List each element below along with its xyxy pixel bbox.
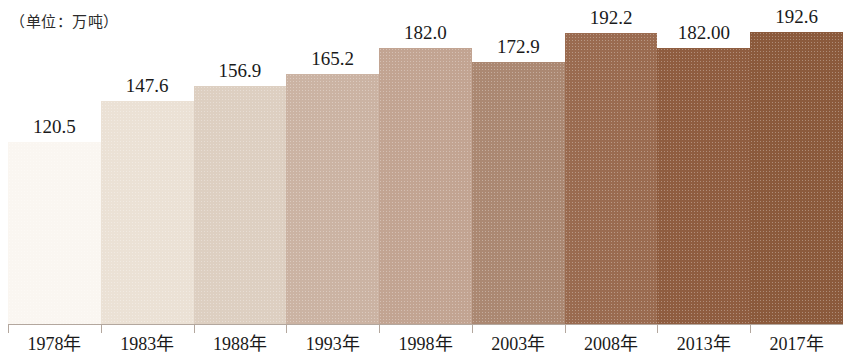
- bar[interactable]: [194, 86, 287, 324]
- bar-value-label: 192.2: [590, 8, 633, 27]
- x-axis-tick: [565, 324, 566, 333]
- bar-slot: 182.00: [657, 0, 750, 324]
- bar-slot: 192.2: [565, 0, 658, 324]
- bar[interactable]: [8, 142, 101, 324]
- x-axis-label: 2017年: [770, 334, 824, 356]
- bar[interactable]: [286, 74, 379, 324]
- bar-value-label: 156.9: [219, 61, 262, 80]
- bar-value-label: 192.6: [775, 7, 818, 26]
- x-axis-label: 1998年: [399, 334, 453, 356]
- x-axis-tick: [8, 324, 9, 333]
- x-axis-label: 1983年: [120, 334, 174, 356]
- bar-value-label: 182.00: [678, 23, 730, 42]
- bar-slot: 147.6: [101, 0, 194, 324]
- x-axis-tick: [657, 324, 658, 333]
- bar-slot: 156.9: [194, 0, 287, 324]
- x-axis-tick: [750, 324, 751, 333]
- bar[interactable]: [750, 32, 843, 324]
- bar-slot: 120.5: [8, 0, 101, 324]
- x-axis-label: 2013年: [677, 334, 731, 356]
- bar-slot: 182.0: [379, 0, 472, 324]
- x-axis-label: 1978年: [27, 334, 81, 356]
- bar-chart: （单位：万吨） 120.5147.6156.9165.2182.0172.919…: [0, 0, 843, 358]
- bar-value-label: 172.9: [497, 37, 540, 56]
- bar-slot: 192.6: [750, 0, 843, 324]
- x-axis-tick: [101, 324, 102, 333]
- bar-value-label: 120.5: [33, 117, 76, 136]
- x-axis-tick: [379, 324, 380, 333]
- bar[interactable]: [657, 48, 750, 324]
- bar[interactable]: [472, 62, 565, 324]
- x-axis-line: [8, 324, 843, 325]
- x-axis-label: 1988年: [213, 334, 267, 356]
- bar-value-label: 165.2: [311, 49, 354, 68]
- bar-value-label: 182.0: [404, 23, 447, 42]
- x-axis-label: 2008年: [584, 334, 638, 356]
- bar[interactable]: [379, 48, 472, 324]
- x-axis-tick: [194, 324, 195, 333]
- x-axis-label: 1993年: [306, 334, 360, 356]
- plot-area: 120.5147.6156.9165.2182.0172.9192.2182.0…: [0, 0, 843, 324]
- bar-value-label: 147.6: [126, 76, 169, 95]
- bar-slot: 165.2: [286, 0, 379, 324]
- bar-slot: 172.9: [472, 0, 565, 324]
- bar[interactable]: [565, 33, 658, 324]
- x-axis-tick: [286, 324, 287, 333]
- x-axis-tick: [472, 324, 473, 333]
- bar[interactable]: [101, 101, 194, 324]
- x-axis-label: 2003年: [491, 334, 545, 356]
